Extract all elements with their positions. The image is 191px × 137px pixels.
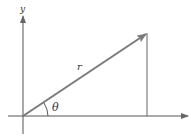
angle-label: θ xyxy=(52,101,59,114)
polar-diagram: y r θ xyxy=(0,0,191,137)
radius-label: r xyxy=(77,61,83,72)
vector-r xyxy=(23,34,146,116)
y-axis-label: y xyxy=(19,4,26,14)
angle-arc xyxy=(44,103,48,116)
